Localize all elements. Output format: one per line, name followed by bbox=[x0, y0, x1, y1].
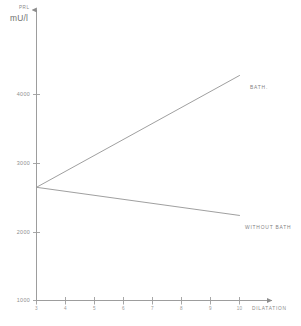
series-line-without-bath bbox=[37, 187, 240, 215]
x-tick-label-8: 8 bbox=[176, 306, 188, 311]
x-tick-label-7: 7 bbox=[147, 306, 159, 311]
y-tick-label-1000: 1000 bbox=[6, 297, 30, 303]
y-tick-label-4000: 4000 bbox=[6, 91, 30, 97]
x-tick-label-6: 6 bbox=[118, 306, 130, 311]
x-tick-label-4: 4 bbox=[60, 306, 72, 311]
y-tick-label-3000: 3000 bbox=[6, 160, 30, 166]
x-tick-label-9: 9 bbox=[205, 306, 217, 311]
series-line-bath bbox=[37, 75, 240, 187]
x-tick-label-5: 5 bbox=[89, 306, 101, 311]
y-tick-label-2000: 2000 bbox=[6, 229, 30, 235]
x-tick-label-10: 10 bbox=[234, 306, 246, 311]
series-label-bath: BATH. bbox=[250, 85, 268, 90]
y-axis-unit-label: mU/l bbox=[10, 13, 28, 23]
x-tick-label-3: 3 bbox=[31, 306, 43, 311]
x-axis-title: DILATATION bbox=[252, 306, 287, 311]
series-label-without-bath: WITHOUT BATH bbox=[245, 225, 291, 230]
chart-plot-area bbox=[0, 0, 301, 326]
y-axis-title: PRL bbox=[19, 5, 29, 10]
chart-container: PRL mU/l DILATATION 4000 3000 2000 1000 … bbox=[0, 0, 301, 326]
